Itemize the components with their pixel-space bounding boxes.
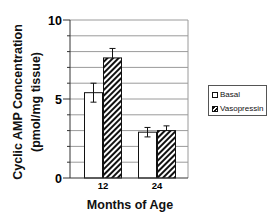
legend-label-basal: Basal (220, 90, 240, 99)
x-tick-label: 24 (152, 180, 163, 191)
bar-vasopressin-24 (158, 131, 176, 178)
legend-label-vasopressin: Vasopressin (220, 104, 263, 113)
legend: Basal Vasopressin (208, 85, 267, 116)
bar-chart: 12240510 Cyclic AMP Concentration (pmol/… (0, 0, 279, 220)
x-tick-label: 12 (98, 180, 109, 191)
legend-item-vasopressin: Vasopressin (212, 104, 263, 113)
bar-basal-12 (85, 93, 103, 178)
legend-item-basal: Basal (212, 90, 240, 99)
legend-swatch-vasopressin (212, 106, 218, 112)
y-axis-label-line1: Cyclic AMP Concentration (9, 2, 27, 202)
y-axis-label: Cyclic AMP Concentration (pmol/mg tissue… (9, 2, 45, 202)
bar-basal-24 (139, 132, 157, 178)
y-tick-label: 5 (55, 93, 62, 107)
x-axis-label: Months of Age (80, 198, 180, 212)
bar-vasopressin-12 (104, 58, 122, 178)
y-axis-label-line2: (pmol/mg tissue) (27, 2, 45, 202)
y-tick-label: 10 (48, 14, 62, 28)
y-tick-label: 0 (55, 172, 62, 186)
legend-swatch-basal (212, 92, 218, 98)
